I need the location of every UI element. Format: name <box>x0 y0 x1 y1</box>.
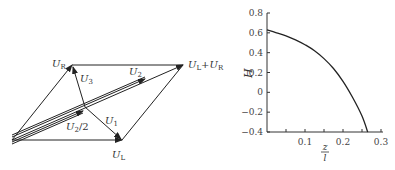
label-U2: U2 <box>129 66 142 79</box>
x-tick-label: 0.1 <box>298 137 312 147</box>
label-U3: U3 <box>80 73 93 86</box>
y-tick-label: −0.4 <box>241 127 263 137</box>
x-tick-label: 0.2 <box>336 137 350 147</box>
figure: UR UL UL+UR U3 U2 U1 U2/2 0.80.60.40.20−… <box>0 0 395 170</box>
chart-axes <box>267 13 383 132</box>
vector-sum <box>12 65 183 140</box>
h-vs-z-chart: 0.80.60.40.20−0.2−0.4 0.10.20.3 H z l <box>241 8 388 163</box>
x-axis-label: z l <box>321 142 329 163</box>
y-tick-label: 0 <box>257 87 263 97</box>
label-U2-half: U2/2 <box>66 121 89 134</box>
y-tick-label: 0.6 <box>249 28 264 38</box>
label-UL: UL <box>112 149 125 162</box>
y-tick-label: −0.2 <box>241 107 263 117</box>
y-tick-label: 0.8 <box>249 8 264 18</box>
phasor-labels: UR UL UL+UR U3 U2 U1 U2/2 <box>52 58 224 162</box>
x-tick-label: 0.3 <box>374 137 389 147</box>
svg-text:l: l <box>324 153 327 163</box>
label-UL-plus-UR: UL+UR <box>188 59 224 72</box>
phasor-diagram <box>12 65 183 144</box>
h-curve <box>267 30 368 132</box>
svg-text:z: z <box>322 142 328 152</box>
label-UR: UR <box>52 58 66 71</box>
y-axis-label: H <box>242 68 255 79</box>
y-tick-label: 0.4 <box>249 48 264 58</box>
